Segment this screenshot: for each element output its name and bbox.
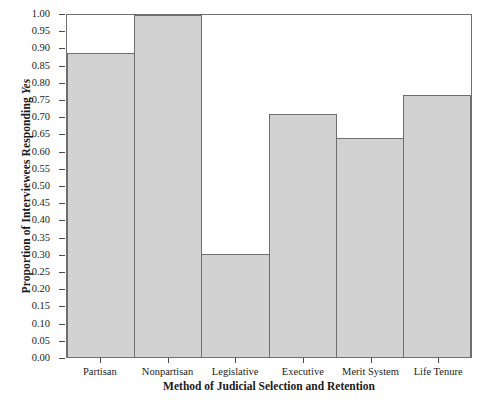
y-tick-label: 0.95	[0, 26, 50, 36]
y-tick-mark	[59, 100, 65, 101]
y-axis-tick-labels: 1.000.950.900.850.800.750.700.650.600.55…	[0, 0, 58, 400]
x-tick-label: Executive	[269, 365, 337, 378]
y-tick-mark	[59, 117, 65, 118]
x-tick-label: Nonpartisan	[134, 365, 202, 378]
x-tick-mark	[303, 358, 304, 363]
x-tick-mark	[371, 358, 372, 363]
bar	[403, 95, 471, 357]
y-tick-mark	[59, 186, 65, 187]
y-tick-label: 0.40	[0, 215, 50, 225]
bar	[336, 138, 404, 357]
y-tick-label: 0.25	[0, 267, 50, 277]
y-tick-mark	[59, 203, 65, 204]
x-tick-mark	[100, 358, 101, 363]
x-tick-label: Partisan	[66, 365, 134, 378]
y-tick-label: 0.65	[0, 129, 50, 139]
y-tick-label: 0.05	[0, 336, 50, 346]
x-tick-mark	[235, 358, 236, 363]
y-tick-label: 0.15	[0, 301, 50, 311]
y-tick-mark	[59, 324, 65, 325]
y-tick-mark	[59, 255, 65, 256]
y-tick-mark	[59, 306, 65, 307]
y-tick-mark	[59, 272, 65, 273]
y-tick-label: 0.20	[0, 284, 50, 294]
y-tick-label: 0.35	[0, 233, 50, 243]
x-tick-label: Legislative	[201, 365, 269, 378]
x-axis-title: Method of Judicial Selection and Retenti…	[66, 380, 472, 392]
y-tick-mark	[59, 341, 65, 342]
y-tick-label: 0.50	[0, 181, 50, 191]
y-tick-label: 0.90	[0, 43, 50, 53]
y-tick-mark	[59, 48, 65, 49]
bar-series	[67, 15, 471, 357]
y-tick-mark	[59, 238, 65, 239]
y-tick-label: 0.75	[0, 95, 50, 105]
bar	[201, 254, 269, 357]
y-tick-mark	[59, 83, 65, 84]
y-tick-mark	[59, 169, 65, 170]
x-tick-label: Merit System	[337, 365, 405, 378]
y-tick-label: 0.10	[0, 319, 50, 329]
y-tick-label: 0.00	[0, 353, 50, 363]
x-tick-mark	[438, 358, 439, 363]
y-tick-mark	[59, 358, 65, 359]
bar	[67, 53, 135, 357]
y-tick-mark	[59, 31, 65, 32]
y-tick-label: 0.55	[0, 164, 50, 174]
y-tick-mark	[59, 289, 65, 290]
y-tick-mark	[59, 66, 65, 67]
y-tick-label: 0.45	[0, 198, 50, 208]
y-tick-mark	[59, 134, 65, 135]
y-tick-mark	[59, 220, 65, 221]
bar	[269, 114, 337, 357]
x-tick-label: Life Tenure	[404, 365, 472, 378]
x-tick-mark	[168, 358, 169, 363]
y-tick-mark	[59, 14, 65, 15]
plot-area	[66, 14, 472, 358]
bar	[134, 15, 202, 357]
y-tick-label: 0.30	[0, 250, 50, 260]
y-tick-label: 0.80	[0, 78, 50, 88]
y-tick-mark	[59, 152, 65, 153]
y-tick-label: 0.60	[0, 147, 50, 157]
y-tick-label: 1.00	[0, 9, 50, 19]
y-tick-label: 0.85	[0, 61, 50, 71]
y-tick-label: 0.70	[0, 112, 50, 122]
bar-chart-figure: Proportion of Interviewees Responding Ye…	[0, 0, 484, 400]
